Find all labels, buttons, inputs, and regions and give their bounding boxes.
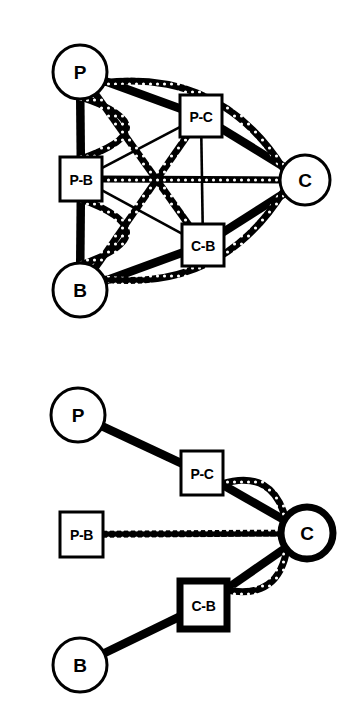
- bottom-square-shape-PB[interactable]: [60, 512, 103, 557]
- bottom-node-P[interactable]: P: [51, 388, 105, 442]
- top-node-PC[interactable]: P-C: [180, 95, 222, 137]
- bottom-edge-PB-C-textured: [101, 533, 283, 534]
- bottom-edge-B-CB-solid: [102, 615, 183, 654]
- bottom-square-shape-PC[interactable]: [181, 451, 223, 495]
- top-edge-P-PB-solid: [80, 96, 81, 160]
- bottom-node-B[interactable]: B: [53, 638, 107, 692]
- top-edge-PB-B-solid: [80, 198, 81, 266]
- bottom-panel-svg: PP-CCP-BC-BB: [0, 350, 358, 703]
- bottom-node-CB[interactable]: C-B: [180, 581, 227, 629]
- bottom-circle-shape-B[interactable]: [53, 638, 107, 692]
- bottom-square-shape-CB[interactable]: [180, 581, 227, 629]
- top-node-PB[interactable]: P-B: [60, 157, 102, 201]
- top-circle-shape-B[interactable]: [53, 263, 107, 317]
- top-circle-shape-C[interactable]: [280, 155, 330, 205]
- top-node-CB[interactable]: C-B: [182, 224, 224, 266]
- bottom-circle-shape-P[interactable]: [51, 388, 105, 442]
- bottom-node-PC[interactable]: P-C: [181, 451, 223, 495]
- top-square-shape-CB[interactable]: [182, 224, 224, 266]
- bottom-panel: PP-CCP-BC-BB: [0, 350, 358, 703]
- bottom-node-layer: PP-CCP-BC-BB: [51, 388, 333, 692]
- top-panel: PP-CCP-BC-BB: [0, 0, 358, 350]
- bottom-circle-shape-C[interactable]: [281, 507, 333, 559]
- top-square-shape-PB[interactable]: [60, 157, 102, 201]
- top-panel-svg: PP-CCP-BC-BB: [0, 0, 358, 350]
- top-edge-PB-C-textured: [100, 179, 282, 180]
- top-node-B[interactable]: B: [53, 263, 107, 317]
- top-circle-shape-P[interactable]: [53, 45, 107, 99]
- top-square-shape-PC[interactable]: [180, 95, 222, 137]
- bottom-node-PB[interactable]: P-B: [60, 512, 103, 557]
- bottom-edge-P-PC-solid: [100, 425, 184, 464]
- figure-canvas: PP-CCP-BC-BB PP-CCP-BC-BB: [0, 0, 358, 703]
- top-node-P[interactable]: P: [53, 45, 107, 99]
- top-node-C[interactable]: C: [280, 155, 330, 205]
- bottom-node-C[interactable]: C: [281, 507, 333, 559]
